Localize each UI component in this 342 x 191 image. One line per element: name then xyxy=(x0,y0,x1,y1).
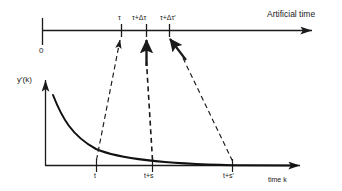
connector-tsp-to-tau-dtaup-arrow xyxy=(170,39,186,60)
artificial-time-axis xyxy=(42,18,312,45)
signal-tick-label-t: t xyxy=(94,172,96,179)
connector-t-to-tau xyxy=(97,40,121,160)
artificial-tick-label-tau-dtau-prime: τ+Δτ′ xyxy=(160,14,176,21)
artificial-time-axis-title: Artificial time xyxy=(267,10,315,19)
timing-diagram-figure: Artificial time 0 τ τ+Δτ τ+Δτ′ y′(k) t t… xyxy=(0,0,342,191)
signal-tick-label-t-plus-s-prime: t+s′ xyxy=(223,172,234,179)
impulse-response-curve xyxy=(53,95,296,165)
signal-axes xyxy=(45,80,300,172)
artificial-tick-label-tau-dtau: τ+Δτ xyxy=(132,14,146,21)
signal-x-axis-title: time k xyxy=(268,176,287,183)
artificial-tick-label-tau: τ xyxy=(118,14,121,21)
signal-y-axis-label: y′(k) xyxy=(17,76,32,84)
artificial-time-origin-label: 0 xyxy=(39,47,43,55)
connector-group xyxy=(97,39,233,161)
connector-tsp-to-tau-dtaup-dash xyxy=(182,56,233,161)
connector-ts-to-tau-dtau-dash xyxy=(147,62,153,160)
signal-tick-label-t-plus-s: t+s xyxy=(144,172,154,179)
figure-canvas xyxy=(0,0,342,191)
